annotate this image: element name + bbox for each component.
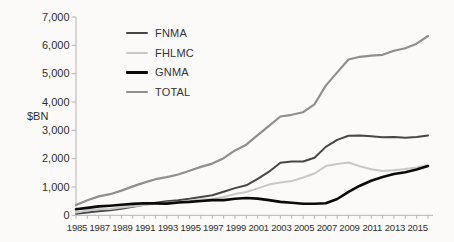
x-tick-label: 2011: [362, 222, 382, 233]
legend-label-total: TOTAL: [155, 86, 190, 98]
fhlmc-line-swatch: [126, 52, 148, 54]
y-axis-title: $BN: [27, 110, 48, 122]
series-line-fnma: [76, 135, 428, 213]
legend-label-fnma: FNMA: [155, 27, 187, 39]
x-tick-label: 2005: [294, 222, 314, 233]
legend-item-gnma: GNMA: [126, 63, 194, 83]
x-tick-label: 1997: [203, 222, 223, 233]
x-tick-label: 1987: [90, 222, 110, 233]
y-tick-label: 3,000: [42, 124, 70, 136]
legend-label-gnma: GNMA: [155, 66, 189, 78]
fnma-line-swatch: [126, 32, 148, 34]
x-tick-label: 1993: [158, 222, 178, 233]
y-tick-label: 2,000: [42, 152, 70, 164]
mbs-outstanding-chart: 01,0002,0003,0004,0005,0006,0007,0001985…: [0, 0, 454, 242]
x-tick-label: 2003: [271, 222, 291, 233]
legend-label-fhlmc: FHLMC: [155, 47, 194, 59]
x-tick-label: 2015: [407, 222, 427, 233]
y-tick-label: 0: [63, 209, 69, 221]
y-tick-label: 4,000: [42, 96, 70, 108]
legend: FNMA FHLMC GNMA TOTAL: [126, 23, 194, 102]
x-tick-label: 1995: [180, 222, 200, 233]
x-tick-label: 1991: [135, 222, 155, 233]
legend-item-fnma: FNMA: [126, 23, 194, 43]
x-tick-label: 1999: [226, 222, 246, 233]
y-tick-label: 1,000: [42, 181, 70, 193]
y-tick-label: 7,000: [42, 11, 70, 23]
legend-item-fhlmc: FHLMC: [126, 43, 194, 63]
x-tick-label: 2001: [249, 222, 269, 233]
x-tick-label: 1985: [67, 222, 87, 233]
legend-item-total: TOTAL: [126, 82, 194, 102]
x-tick-label: 2007: [317, 222, 337, 233]
y-tick-label: 5,000: [42, 67, 70, 79]
y-tick-label: 6,000: [42, 39, 70, 51]
gnma-line-swatch: [126, 71, 148, 74]
x-tick-label: 1989: [112, 222, 132, 233]
plot-area: 01,0002,0003,0004,0005,0006,0007,0001985…: [0, 0, 454, 242]
x-tick-label: 2013: [385, 222, 405, 233]
total-line-swatch: [126, 91, 148, 93]
x-tick-label: 2009: [339, 222, 359, 233]
